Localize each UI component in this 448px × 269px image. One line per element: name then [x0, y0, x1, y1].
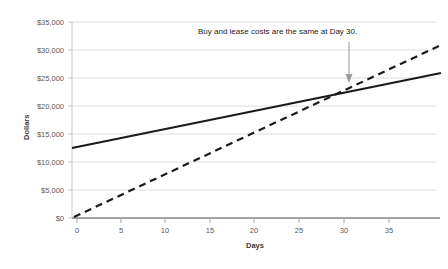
x-tick-label: 0: [62, 226, 92, 235]
annotation-arrow: [346, 42, 353, 83]
annotation-label: Buy and lease costs are the same at Day …: [198, 27, 357, 36]
y-tick-label: $10,000: [16, 158, 64, 167]
x-tick-label: 10: [150, 226, 180, 235]
y-axis-title: Dollars: [22, 115, 31, 140]
x-tick-label: 20: [239, 226, 269, 235]
gridlines: [72, 22, 436, 190]
y-axis-ticks: [68, 22, 72, 218]
y-tick-label: $20,000: [16, 102, 64, 111]
x-tick-label: 25: [284, 226, 314, 235]
x-tick-label: 5: [106, 226, 136, 235]
y-tick-label: $5,000: [16, 186, 64, 195]
x-tick-label: 35: [374, 226, 404, 235]
chart-container: $35,000 $30,000 $25,000 $20,000 $15,000 …: [0, 0, 448, 269]
series-line-buy: [72, 73, 441, 148]
x-axis-title: Days: [225, 241, 285, 250]
y-tick-label: $35,000: [16, 18, 64, 27]
y-tick-label: $0: [16, 214, 64, 223]
y-tick-label: $25,000: [16, 74, 64, 83]
x-tick-label: 30: [329, 226, 359, 235]
x-tick-label: 15: [195, 226, 225, 235]
series-line-lease: [74, 45, 441, 217]
y-tick-label: $30,000: [16, 46, 64, 55]
